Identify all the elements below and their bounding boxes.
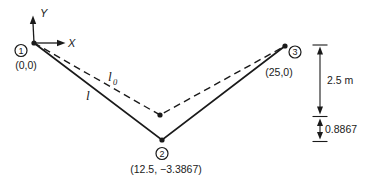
node-1-coords: (0,0) — [15, 59, 37, 71]
y-axis-arrowhead-icon — [30, 16, 36, 25]
x-axis-label: X — [67, 37, 76, 49]
figure-canvas: Y X 1 2 3 (0,0) (12.5, −3.3867) (25,0) l… — [0, 0, 370, 183]
truss-diagram: Y X 1 2 3 (0,0) (12.5, −3.3867) (25,0) l… — [0, 0, 370, 183]
dim-arrow-down-small-icon — [317, 132, 323, 140]
node-3-dot — [282, 43, 287, 48]
node-3-coords: (25,0) — [265, 66, 292, 78]
member-undeformed-label: l — [108, 69, 112, 84]
node-2-dot — [159, 137, 164, 142]
y-axis-line — [33, 23, 34, 43]
node-3-number: 3 — [292, 47, 297, 57]
dim-label-span-depth: 2.5 m — [327, 74, 354, 86]
member-undeformed-label-subscript: 0 — [113, 77, 118, 87]
dim-arrow-up-small-icon — [317, 119, 323, 127]
y-axis-label: Y — [40, 7, 48, 19]
member-deformed-line — [34, 43, 285, 140]
member-undeformed-line — [34, 43, 285, 115]
node-2-number: 2 — [159, 149, 164, 159]
x-axis-arrowhead-icon — [57, 40, 66, 46]
node-1-number: 1 — [18, 46, 23, 56]
node-2-coords: (12.5, −3.3867) — [130, 163, 202, 175]
undeformed-vertex-dot — [157, 112, 162, 117]
member-deformed-label: l — [86, 88, 90, 103]
dim-arrow-down-icon — [317, 107, 323, 115]
node-1-dot — [31, 40, 36, 45]
dim-label-deflection: 0.8867 — [325, 123, 357, 135]
dim-arrow-up-icon — [317, 47, 323, 55]
